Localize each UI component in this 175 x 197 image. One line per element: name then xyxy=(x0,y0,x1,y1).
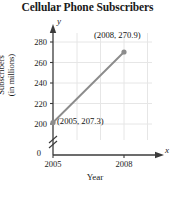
y-axis xyxy=(50,24,56,155)
y-axis-title-line2: (in millions) xyxy=(6,27,16,123)
x-tick-label: 2008 xyxy=(107,159,141,169)
data-point-marker xyxy=(121,49,126,54)
data-point-label: (2008, 270.9) xyxy=(94,30,141,40)
x-tick-label: 2005 xyxy=(36,159,70,169)
y-tick-label: 240 xyxy=(21,78,47,88)
chart-container: Cellular Phone Subscribers y x xyxy=(0,0,175,197)
y-tick-label: 260 xyxy=(21,58,47,68)
y-axis-origin-label: 0 xyxy=(27,148,41,158)
x-axis xyxy=(53,152,164,158)
y-tick-label: 280 xyxy=(21,37,47,47)
x-axis-title: Year xyxy=(40,172,150,182)
data-point-marker xyxy=(50,120,55,125)
y-axis-title: Subscribers (in millions) xyxy=(0,27,22,123)
y-tick-label: 200 xyxy=(21,119,47,129)
data-point-label: (2005, 207.3) xyxy=(57,116,104,126)
y-tick-label: 220 xyxy=(21,99,47,109)
